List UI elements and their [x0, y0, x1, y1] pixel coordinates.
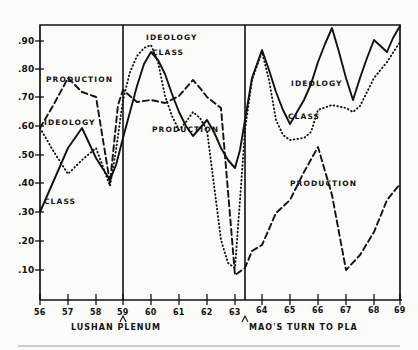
y-tick-label-40: .40 — [18, 178, 35, 188]
x-tick-label-62: 62 — [201, 308, 213, 317]
inline-label-class-right: CLASS — [288, 112, 320, 121]
y-tick-label-80: .80 — [18, 64, 35, 74]
inline-label-class-left: CLASS — [44, 197, 76, 206]
inline-label-ideology-right: IDEOLOGY — [291, 79, 343, 88]
y-tick-label-20: .20 — [18, 236, 35, 246]
inline-label-production-right: PRODUCTION — [290, 179, 357, 188]
y-tick-label-10: .10 — [18, 265, 35, 275]
inline-label-production-left: PRODUCTION — [46, 75, 113, 84]
x-tick-label-69: 69 — [394, 306, 406, 315]
inline-label-production-middle: PRODUCTION — [152, 125, 219, 134]
x-tick-label-66: 66 — [312, 306, 324, 315]
y-tick-label-30: .30 — [18, 207, 35, 217]
caret-mao-icon — [242, 316, 248, 322]
x-tick-label-57: 57 — [62, 308, 74, 317]
x-tick-label-67: 67 — [340, 306, 352, 315]
y-tick-label-70: .70 — [18, 92, 35, 102]
inline-label-class-middle: CLASS — [152, 48, 184, 57]
y-tick-label-60: .60 — [18, 121, 35, 131]
x-tick-label-58: 58 — [90, 308, 102, 317]
y-tick-label-50: .50 — [18, 150, 35, 160]
x-tick-label-64: 64 — [256, 306, 268, 315]
y-tick-label-90: .90 — [18, 36, 35, 46]
plot-frame — [40, 25, 400, 300]
inline-label-ideology-middle: IDEOLOGY — [146, 33, 198, 42]
chart-container: .90 .80 .70 .60 .50 .40 .30 .20 .10 56 5 — [0, 0, 418, 350]
annotation-mao-turn-to-pla: MAO'S TURN TO PLA — [249, 323, 358, 332]
x-tick-label-68: 68 — [368, 306, 380, 315]
x-tick-label-60: 60 — [145, 308, 157, 317]
line-chart-plot: .90 .80 .70 .60 .50 .40 .30 .20 .10 56 5 — [0, 0, 418, 350]
x-tick-label-65: 65 — [284, 306, 296, 315]
annotation-lushan-plenum: LUSHAN PLENUM — [71, 323, 161, 332]
inline-label-ideology-left: IDEOLOGY — [44, 118, 96, 127]
x-tick-label-56: 56 — [34, 308, 46, 317]
x-tick-label-63: 63 — [229, 308, 241, 317]
x-tick-label-61: 61 — [173, 308, 185, 317]
